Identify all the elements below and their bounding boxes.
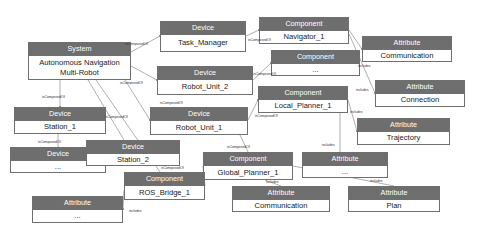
edge-task_manager-navigator (246, 30, 259, 36)
node-attr_conn[interactable]: AttributeConnection (375, 80, 465, 107)
edge-label: includes (266, 180, 278, 184)
node-type-header: Device (15, 108, 105, 121)
node-task_manager[interactable]: DeviceTask_Manager (160, 21, 246, 52)
node-type-header: Component (260, 18, 348, 31)
edge-label: isComposedOf (160, 101, 183, 105)
edge-label: includes (129, 209, 141, 213)
edge-label: isComposedOf (253, 72, 276, 76)
node-type-header: Attribute (233, 187, 329, 200)
edge-label: includes (322, 143, 334, 147)
node-type-header: Attribute (376, 81, 464, 94)
node-name-body: Trajectory (358, 132, 449, 144)
node-name-body: ... (272, 64, 359, 75)
node-type-header: Component (125, 173, 204, 186)
node-robot_unit_2[interactable]: DeviceRobot_Unit_2 (157, 66, 253, 95)
node-type-header: Attribute (33, 197, 122, 210)
edge-label: isComposedOf (42, 95, 65, 99)
node-type-header: Device (87, 141, 179, 154)
node-name-body: Station_2 (87, 154, 179, 165)
node-type-header: Component (272, 51, 359, 64)
node-station_1[interactable]: DeviceStation_1 (14, 107, 106, 134)
node-name-body: Plan (349, 200, 439, 211)
node-local_planner[interactable]: ComponentLocal_Planner_1 (258, 86, 348, 113)
diagram-canvas: SystemAutonomous Navigation Multi-RobotD… (0, 0, 478, 235)
edge-label: isComposedOf (105, 115, 128, 119)
node-type-header: Device (161, 22, 245, 35)
node-name-body: Communication (363, 50, 451, 61)
node-robot_unit_1[interactable]: DeviceRobot_Unit_1 (150, 107, 248, 135)
node-name-body: Robot_Unit_2 (158, 80, 252, 94)
node-global_planner[interactable]: ComponentGlobal_Planner_1 (203, 152, 293, 180)
edge-label: isComposedOf (248, 38, 271, 42)
node-type-header: Device (158, 67, 252, 80)
edge-label: includes (350, 110, 362, 114)
node-name-body: Autonomous Navigation Multi-Robot (29, 56, 130, 79)
edge-label: isComposedOf (125, 42, 148, 46)
edge-label: includes (370, 179, 382, 183)
edge-system-robot_unit_2 (131, 66, 157, 80)
node-name-body: ... (33, 210, 122, 222)
node-navigator_1[interactable]: ComponentNavigator_1 (259, 17, 349, 44)
edge-label: isComposedOf (255, 114, 278, 118)
node-type-header: Attribute (349, 187, 439, 200)
node-attr_traj[interactable]: AttributeTrajectory (357, 118, 450, 145)
edge-label: includes (356, 88, 368, 92)
node-type-header: Component (204, 153, 292, 166)
node-name-body: Connection (376, 94, 464, 106)
node-attr_etc_mid[interactable]: Attribute... (302, 152, 388, 178)
node-name-body: Navigator_1 (260, 31, 348, 43)
edge-label: isComposedOf (161, 166, 184, 170)
node-attr_plan[interactable]: AttributePlan (348, 186, 440, 212)
node-name-body: Global_Planner_1 (204, 166, 292, 179)
node-name-body: Local_Planner_1 (259, 100, 347, 112)
edge-label: isComposedOf (38, 140, 61, 144)
node-attr_comm_bot[interactable]: AttributeCommunication (232, 186, 330, 212)
node-attr_etc_left[interactable]: Attribute... (32, 196, 123, 223)
node-ros_bridge[interactable]: ComponentROS_Bridge_1 (124, 172, 205, 200)
node-type-header: Attribute (358, 119, 449, 132)
edge-label: includes (358, 64, 370, 68)
node-type-header: Component (259, 87, 347, 100)
edge-navigator-comm (349, 30, 362, 49)
edge-system-robot_unit_1 (125, 80, 150, 120)
edge-local-traj (348, 100, 357, 131)
node-name-body: Robot_Unit_1 (151, 121, 247, 134)
edge-label: isComposedOf (227, 145, 250, 149)
node-name-body: Communication (233, 200, 329, 211)
edge-robot1-global_planner (240, 135, 248, 152)
node-name-body: ... (303, 166, 387, 177)
node-name-body: Station_1 (15, 121, 105, 133)
node-type-header: Device (151, 108, 247, 121)
edge-label: isComposedOf (120, 81, 143, 85)
node-type-header: System (29, 43, 130, 56)
node-comp_etc[interactable]: Component... (271, 50, 360, 76)
node-type-header: Attribute (303, 153, 387, 166)
node-system[interactable]: SystemAutonomous Navigation Multi-Robot (28, 42, 131, 80)
node-type-header: Attribute (363, 37, 451, 50)
node-attr_comm_top[interactable]: AttributeCommunication (362, 36, 452, 62)
node-name-body: ROS_Bridge_1 (125, 186, 204, 199)
node-station_2[interactable]: DeviceStation_2 (86, 140, 180, 166)
node-name-body: Task_Manager (161, 35, 245, 51)
